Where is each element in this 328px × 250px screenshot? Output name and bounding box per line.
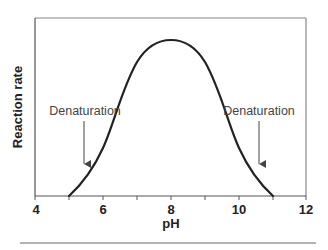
x-tick-label-10: 10 <box>232 202 246 217</box>
x-tick-label-8: 8 <box>167 202 174 217</box>
x-tick-label-4: 4 <box>32 202 40 217</box>
y-axis-title: Reaction rate <box>10 66 25 148</box>
annotation-right-label: Denaturation <box>223 104 295 118</box>
x-ticks <box>35 196 306 200</box>
annotation-left-label: Denaturation <box>49 104 121 118</box>
reaction-rate-curve <box>69 40 273 196</box>
chart: 4 6 8 10 12 pH Reaction rate Denaturatio… <box>0 0 328 250</box>
x-axis-title: pH <box>162 216 179 231</box>
x-tick-label-12: 12 <box>299 202 313 217</box>
x-tick-label-6: 6 <box>99 202 106 217</box>
